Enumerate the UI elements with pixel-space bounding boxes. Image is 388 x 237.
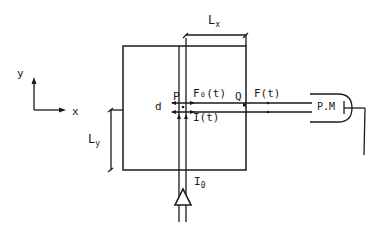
label-f0t: F₀(t) [193, 88, 226, 99]
arrow-right-icon [190, 101, 195, 105]
channel-dot [267, 111, 269, 113]
label-it: I(t) [193, 112, 220, 123]
point-p-dot [182, 106, 185, 109]
label-pm: P.M [317, 102, 335, 112]
point-q-dot [243, 104, 246, 107]
label-p: P [173, 91, 180, 102]
x-axis-label: x [72, 106, 79, 117]
ly-dimension [108, 108, 123, 172]
source-triangle-icon [175, 189, 191, 205]
label-i0: I0 [194, 176, 205, 187]
lx-label: Lx [208, 14, 220, 26]
sample-square [123, 46, 246, 170]
arrow-up-icon [177, 114, 181, 119]
arrow-left-icon [171, 110, 176, 114]
label-d: d [155, 101, 162, 112]
lx-sub: x [215, 20, 220, 29]
arrow-up-icon [184, 114, 188, 119]
ly-sub: y [95, 139, 100, 148]
i0-main: I [194, 175, 201, 188]
y-axis-label: y [17, 68, 24, 79]
label-q: Q [235, 91, 242, 102]
i0-sub: 0 [201, 181, 206, 190]
x-arrow-icon [59, 108, 66, 113]
lx-dimension [183, 33, 248, 46]
label-ft: F(t) [254, 88, 281, 99]
flow-arrows [171, 101, 195, 119]
ly-label: Ly [88, 133, 100, 145]
channel-dot [267, 102, 269, 104]
coordinate-axes [32, 77, 67, 113]
y-arrow-icon [32, 77, 37, 84]
